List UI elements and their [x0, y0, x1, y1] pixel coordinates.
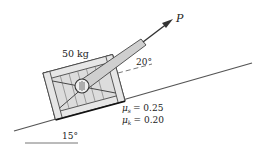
- force-arrow: [143, 19, 173, 42]
- crate-on-incline-diagram: P 20° 50 kg 15° μs= 0.25 μk= 0.20: [0, 0, 262, 150]
- static-friction-label: μs= 0.25: [122, 103, 164, 114]
- incline-angle-label: 15°: [62, 131, 78, 141]
- force-angle-label: 20°: [136, 57, 152, 67]
- kinetic-friction-label: μk= 0.20: [122, 115, 164, 126]
- force-label: P: [175, 12, 184, 25]
- mass-label: 50 kg: [62, 48, 89, 59]
